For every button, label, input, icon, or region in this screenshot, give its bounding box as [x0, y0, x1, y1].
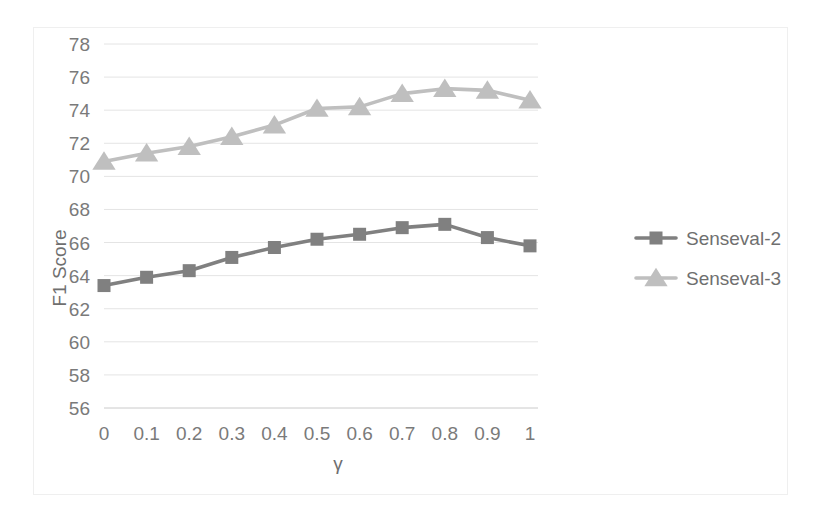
chart-svg: 565860626466687072747678 00.10.20.30.40.…	[0, 0, 823, 529]
data-point-marker	[268, 241, 281, 254]
x-tick-label: 0.7	[389, 423, 415, 444]
x-tick-label: 0.4	[261, 423, 288, 444]
data-point-marker	[396, 221, 409, 234]
y-tick-label: 78	[69, 34, 90, 55]
data-point-marker	[524, 239, 537, 252]
y-tick-labels: 565860626466687072747678	[69, 34, 91, 419]
x-tick-label: 0.9	[474, 423, 500, 444]
series-senseval-3	[92, 79, 541, 170]
data-point-marker	[225, 251, 238, 264]
data-point-marker	[98, 279, 111, 292]
y-tick-label: 74	[69, 100, 91, 121]
x-tick-label: 0.3	[219, 423, 245, 444]
y-tick-label: 68	[69, 199, 90, 220]
y-tick-label: 58	[69, 365, 90, 386]
data-point-marker	[311, 233, 324, 246]
y-tick-label: 64	[69, 266, 91, 287]
legend-item-senseval-2[interactable]: Senseval-2	[636, 228, 781, 249]
legend-item-senseval-3[interactable]: Senseval-3	[636, 268, 781, 289]
legend-label: Senseval-3	[686, 268, 781, 289]
y-tick-label: 62	[69, 299, 90, 320]
series-senseval-2	[98, 218, 537, 292]
data-point-marker	[353, 228, 366, 241]
data-point-marker	[438, 218, 451, 231]
y-tick-label: 70	[69, 166, 90, 187]
legend-label: Senseval-2	[686, 228, 781, 249]
y-tick-label: 76	[69, 67, 90, 88]
x-tick-label: 0.6	[346, 423, 372, 444]
data-point-marker	[140, 271, 153, 284]
y-tick-label: 60	[69, 332, 90, 353]
x-tick-label: 1	[525, 423, 536, 444]
data-point-marker	[650, 232, 663, 245]
y-tick-label: 56	[69, 398, 90, 419]
x-axis-title: γ	[333, 453, 343, 474]
x-tick-label: 0.5	[304, 423, 330, 444]
x-tick-label: 0.1	[133, 423, 159, 444]
gridlines	[104, 44, 538, 408]
chart-legend: Senseval-2Senseval-3	[636, 228, 781, 289]
y-tick-label: 66	[69, 233, 90, 254]
x-tick-labels: 00.10.20.30.40.50.60.70.80.91	[99, 423, 536, 444]
y-tick-label: 72	[69, 133, 90, 154]
chart-container: 565860626466687072747678 00.10.20.30.40.…	[0, 0, 823, 529]
y-axis-title: F1 Score	[49, 229, 70, 306]
data-point-marker	[263, 115, 286, 133]
data-point-marker	[481, 231, 494, 244]
data-point-marker	[183, 264, 196, 277]
x-tick-label: 0	[99, 423, 110, 444]
x-tick-label: 0.2	[176, 423, 202, 444]
x-tick-label: 0.8	[432, 423, 458, 444]
